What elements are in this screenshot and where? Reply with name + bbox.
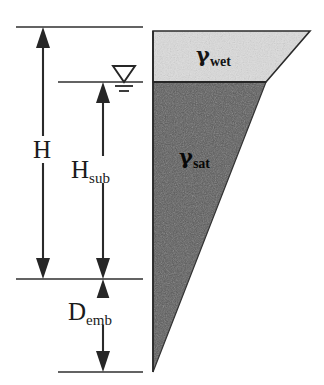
dimension-label-Hsub: Hsub	[68, 156, 113, 183]
dimension-label-H: H	[30, 136, 54, 163]
dimension-label-Demb: Demb	[65, 298, 115, 325]
dimension-H-arrow-up	[36, 27, 50, 48]
soil-label-gamma-wet: γwet	[196, 44, 231, 65]
dimension-Demb-arrow-up	[96, 279, 110, 300]
dimension-Hsub-arrow-up	[96, 82, 110, 103]
groundwater-table-symbol	[113, 66, 135, 91]
soil-layer-wet	[153, 31, 310, 82]
soil-label-gamma-sat: γsat	[179, 146, 210, 167]
dimension-Demb-arrow-down	[96, 351, 110, 372]
diagram-canvas: H Hsub Demb γwet γsat	[0, 0, 324, 385]
diagram-svg	[0, 0, 324, 385]
dimension-H-arrow-down	[36, 258, 50, 279]
dimension-Hsub-arrow-down	[96, 258, 110, 279]
soil-layer-sat	[153, 82, 266, 372]
water-table-triangle-icon	[113, 66, 135, 82]
